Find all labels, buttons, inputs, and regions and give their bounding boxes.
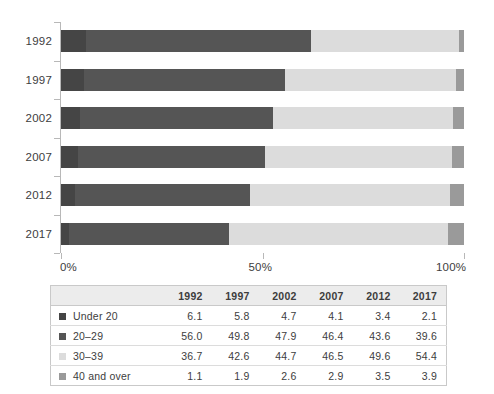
table-cell: 3.5 (353, 366, 400, 386)
table-cell: 4.1 (306, 306, 353, 326)
bar-segment (452, 146, 464, 168)
table-cell: 3.9 (400, 366, 447, 386)
table-column-header-1992: 1992 (165, 286, 212, 306)
table-row: 20–2956.049.847.946.443.639.6 (51, 326, 447, 346)
y-axis-label-2002: 2002 (10, 112, 52, 124)
table-cell: 46.5 (306, 346, 353, 366)
x-axis-label: 0% (60, 261, 77, 273)
bar-segment (61, 69, 84, 91)
y-axis-label-2012: 2012 (10, 189, 52, 201)
bar-segment (61, 30, 86, 52)
y-axis-label-2007: 2007 (10, 151, 52, 163)
table-row-label: 30–39 (51, 346, 165, 366)
bar-segment (453, 107, 463, 129)
bar-segment (86, 30, 312, 52)
bar-segment (69, 223, 229, 245)
legend-swatch-icon (59, 373, 66, 380)
y-axis-tick (54, 61, 60, 62)
bar-segment (459, 30, 463, 52)
bar-segment (75, 184, 251, 206)
legend-label: 40 and over (73, 370, 131, 382)
table-corner-cell (51, 286, 165, 306)
y-axis-label-1997: 1997 (10, 74, 52, 86)
y-axis-tick (54, 138, 60, 139)
chart-page: 199219972002200720122017 0%50%100% 19921… (0, 0, 494, 394)
table-cell: 49.6 (353, 346, 400, 366)
bar-segment (285, 69, 457, 91)
table-column-header-2012: 2012 (353, 286, 400, 306)
table-cell: 49.8 (212, 326, 259, 346)
bar-row (61, 107, 464, 129)
table-column-header-2002: 2002 (259, 286, 306, 306)
bar-segment (265, 146, 452, 168)
bar-segment (229, 223, 448, 245)
table-cell: 1.9 (212, 366, 259, 386)
bar-row (61, 69, 464, 91)
table-column-header-2007: 2007 (306, 286, 353, 306)
table-cell: 39.6 (400, 326, 447, 346)
table-column-header-1997: 1997 (212, 286, 259, 306)
table-cell: 4.7 (259, 306, 306, 326)
y-axis-end-tick (54, 22, 60, 23)
table-cell: 46.4 (306, 326, 353, 346)
table-row-label: 40 and over (51, 366, 165, 386)
bar-segment (456, 69, 464, 91)
y-axis-labels: 199219972002200720122017 (8, 0, 52, 282)
legend-label: 20–29 (73, 330, 103, 342)
x-axis-tick (61, 253, 62, 259)
y-axis-tick (54, 215, 60, 216)
table-cell: 3.4 (353, 306, 400, 326)
bar-segment (78, 146, 265, 168)
table-header: 199219972002200720122017 (51, 286, 447, 306)
table-cell: 56.0 (165, 326, 212, 346)
y-axis-label-1992: 1992 (10, 35, 52, 47)
bar-row (61, 184, 464, 206)
bar-segment (311, 30, 459, 52)
y-axis-tick (54, 176, 60, 177)
legend-swatch-icon (59, 333, 66, 340)
y-axis-end-tick (54, 253, 60, 254)
stacked-bar-chart: 199219972002200720122017 0%50%100% (0, 0, 494, 282)
x-axis-label: 100% (436, 261, 466, 273)
bar-segment (448, 223, 464, 245)
x-axis-tick (263, 253, 264, 259)
table-body: Under 206.15.84.74.13.42.120–2956.049.84… (51, 306, 447, 386)
table-cell: 2.9 (306, 366, 353, 386)
table-row: 40 and over1.11.92.62.93.53.9 (51, 366, 447, 386)
bar-segment (250, 184, 450, 206)
table-cell: 5.8 (212, 306, 259, 326)
plot-area (61, 22, 464, 253)
bar-row (61, 223, 464, 245)
bar-segment (450, 184, 464, 206)
legend-label: 30–39 (73, 350, 103, 362)
table-column-header-2017: 2017 (400, 286, 447, 306)
table-row: Under 206.15.84.74.13.42.1 (51, 306, 447, 326)
table-row-label: 20–29 (51, 326, 165, 346)
bar-segment (61, 223, 69, 245)
table-cell: 44.7 (259, 346, 306, 366)
x-axis-label: 50% (249, 261, 273, 273)
table-cell: 6.1 (165, 306, 212, 326)
table-cell: 43.6 (353, 326, 400, 346)
legend-swatch-icon (59, 353, 66, 360)
table-cell: 36.7 (165, 346, 212, 366)
table-cell: 2.1 (400, 306, 447, 326)
bar-segment (61, 146, 78, 168)
table-row-label: Under 20 (51, 306, 165, 326)
bar-segment (273, 107, 453, 129)
data-table: 199219972002200720122017 Under 206.15.84… (50, 285, 447, 386)
bar-segment (84, 69, 285, 91)
bar-segment (80, 107, 273, 129)
table-cell: 2.6 (259, 366, 306, 386)
table-cell: 1.1 (165, 366, 212, 386)
legend-swatch-icon (59, 313, 66, 320)
data-table-container: 199219972002200720122017 Under 206.15.84… (50, 285, 446, 386)
x-axis-tick (464, 253, 465, 259)
legend-label: Under 20 (73, 310, 118, 322)
y-axis-label-2017: 2017 (10, 228, 52, 240)
bar-row (61, 30, 464, 52)
table-cell: 47.9 (259, 326, 306, 346)
table-cell: 42.6 (212, 346, 259, 366)
bar-segment (61, 107, 80, 129)
table-cell: 54.4 (400, 346, 447, 366)
